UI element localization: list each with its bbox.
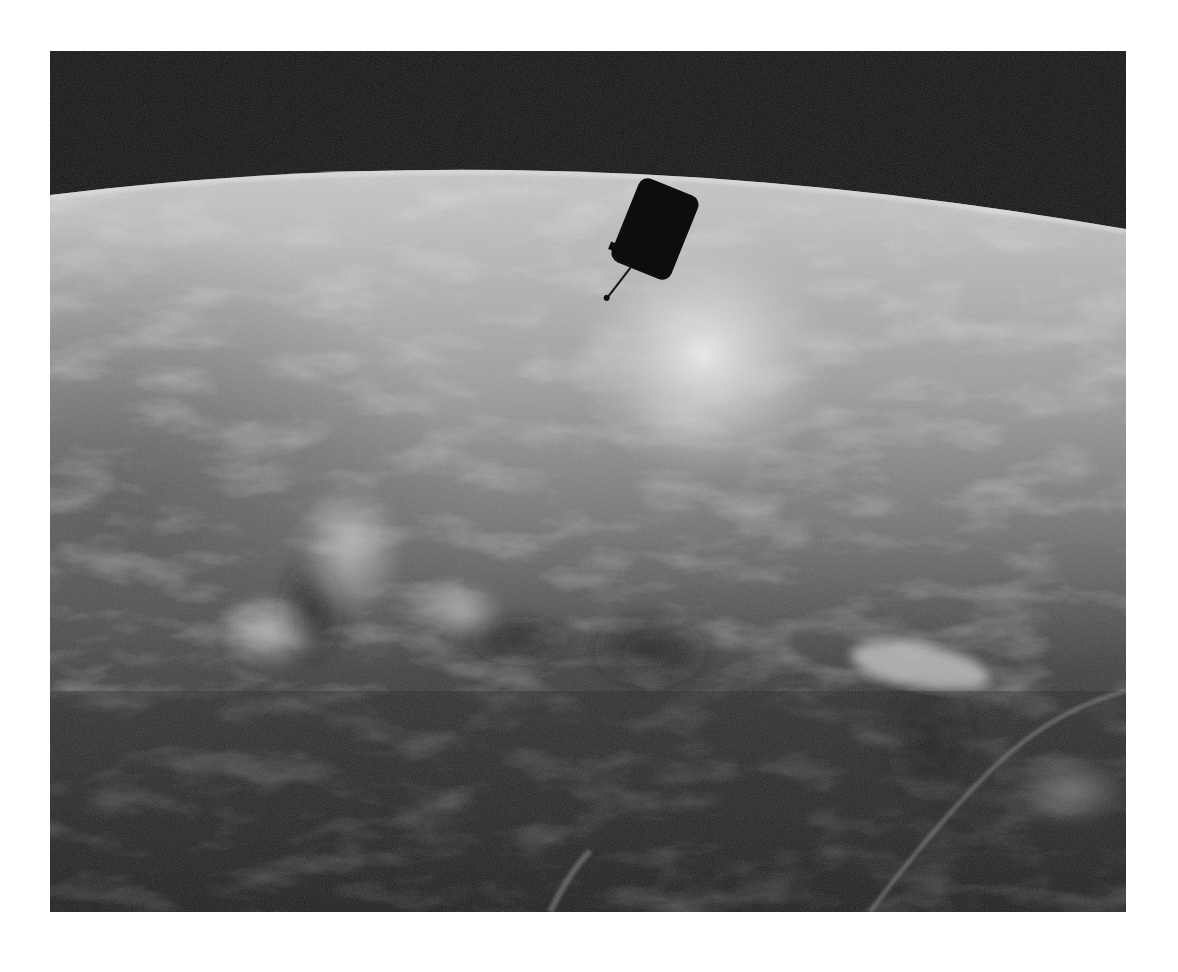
photo-canvas [50,51,1126,912]
earth-orbit-photo: Satellite in orbit above Earth [50,51,1126,912]
